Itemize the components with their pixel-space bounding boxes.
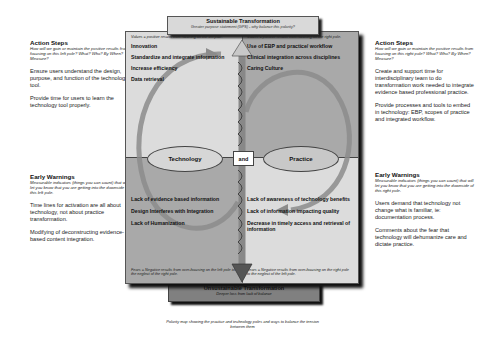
deeper-fear-title: Unsustainable Transformation [169,285,319,292]
left-warning: Modifying of deconstructing evidence-bas… [30,229,130,243]
downside-right-item: Decrease in timely access and retrieval … [247,220,353,232]
pole-practice: Practice [263,146,339,172]
left-warnings-panel: Early Warnings Measurable indicators (th… [30,173,130,249]
upside-right-item: Clinical integration across disciplines [247,54,353,60]
left-early-warnings-subtitle: Measurable indicators (things you can co… [30,180,130,196]
sustainable-transformation-box: Sustainable Transformation Greater purpo… [167,16,319,35]
right-action-step: Provide processes and tools to embed in … [375,102,475,123]
left-action-steps-title: Action Steps [30,39,130,46]
polarity-map: Values = positive results from focusing … [125,31,359,284]
figure-caption: Polarity map showing the practice and te… [160,319,325,329]
left-action-step: Ensure users understand the design, purp… [30,68,130,89]
right-action-steps-subtitle: How will we gain or maintain the positiv… [375,46,475,62]
right-action-step: Create and support time for interdiscipl… [375,68,475,96]
right-warning: Comments about the fear that technology … [375,227,475,248]
upside-right-item: Caring Culture [247,65,353,71]
unsustainable-transformation-box: Unsustainable Transformation Deeper loss… [168,282,320,302]
downside-right-item: Lack of awareness of technology benefits [247,196,353,202]
upside-left-item: Standardize and integrate information [131,54,237,60]
upside-left-item: Increase efficiency [131,65,237,71]
right-warnings-panel: Early Warnings Measurable indicators (th… [375,171,475,254]
left-early-warnings-title: Early Warnings [30,173,130,180]
right-panel: Action Steps How will we gain or maintai… [375,39,475,129]
pole-connector: and [233,151,254,166]
upside-right-item: Use of EBP and practice/ workflow [247,43,353,49]
right-warning: Users demand that technology not change … [375,200,475,221]
downside-left-item: Design Interferes with Integration [131,208,237,214]
gps-subtitle: Greater purpose statement (GPS) - why ba… [168,25,318,30]
upside-left-item: Data retrieval [131,76,237,82]
deeper-fear-subtitle: Deeper loss from lack of balance [169,292,319,297]
left-action-steps-subtitle: How will we gain or maintain the positiv… [30,46,130,62]
downside-left-item: Lack of Humanization [131,220,237,226]
gps-title: Sustainable Transformation [168,18,318,25]
right-early-warnings-subtitle: Measurable indicators (things you can co… [375,178,475,194]
pole-technology: Technology [147,146,223,172]
right-action-steps-title: Action Steps [375,39,475,46]
left-action-step: Provide time for users to learn the tech… [30,95,130,109]
left-warning: Time lines for activation are all about … [30,202,130,223]
upside-left-item: Innovation [131,43,237,49]
downside-left-item: Lack of evidence based information [131,196,237,202]
left-panel: Action Steps How will we gain or maintai… [30,39,130,115]
right-early-warnings-title: Early Warnings [375,171,475,178]
downside-right-item: Lack of information impacting quality [247,208,353,214]
arrow-down-icon [232,264,252,282]
